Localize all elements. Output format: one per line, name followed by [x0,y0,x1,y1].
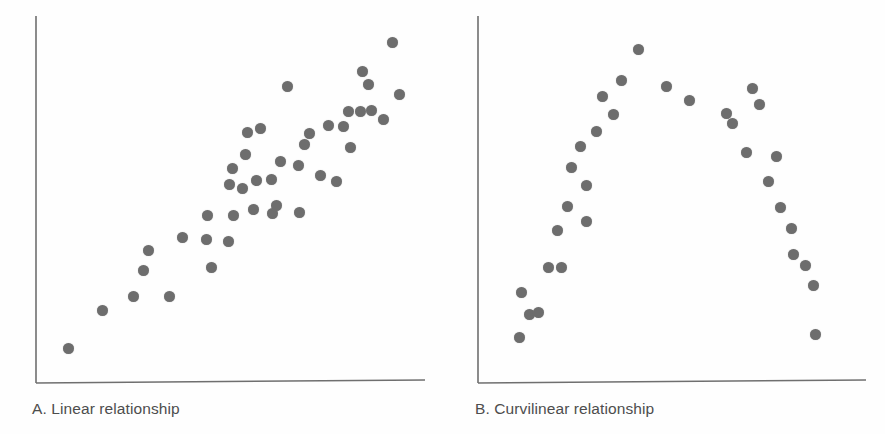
x-axis-line [36,380,425,383]
panel-linear-relationship: A. Linear relationship [0,0,443,434]
x-axis-line [478,380,866,383]
caption-linear: A. Linear relationship [32,400,180,418]
scatterplot-figure: A. Linear relationship B. Curvilinear re… [0,0,885,434]
axes-linear [0,0,443,434]
caption-curvilinear: B. Curvilinear relationship [475,400,654,418]
panel-curvilinear-relationship: B. Curvilinear relationship [443,0,885,434]
axes-curvilinear [443,0,885,434]
